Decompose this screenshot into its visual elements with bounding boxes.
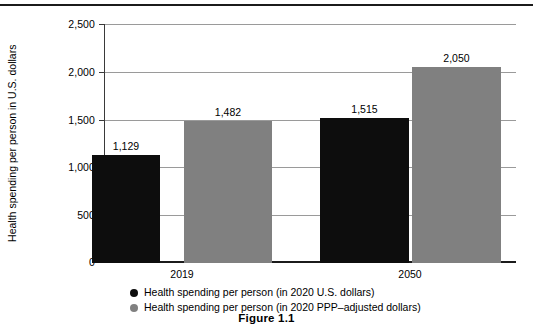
plot-area: 2,500 2,000 1,500 1,000 500 0 1,129 (104, 24, 516, 263)
gridline-2500: 2,500 (104, 24, 516, 25)
bar-2050-ppp-adjusted[interactable]: 2,050 (412, 67, 501, 263)
y-axis-title-text: Health spending per person in U.S. dolla… (8, 45, 19, 242)
bar-value-label: 1,482 (215, 107, 241, 118)
figure-container: Health spending per person in U.S. dolla… (0, 0, 533, 331)
y-axis-title: Health spending per person in U.S. dolla… (6, 24, 20, 263)
legend-swatch-circle-icon (130, 289, 138, 297)
y-tick-label-2500: 2,500 (68, 19, 95, 30)
bar-value-label: 1,515 (351, 104, 377, 115)
y-tick-label-2000: 2,000 (68, 67, 95, 78)
legend-label: Health spending per person (in 2020 U.S.… (144, 287, 375, 298)
top-divider-rule (0, 4, 533, 6)
legend-item-us-dollars[interactable]: Health spending per person (in 2020 U.S.… (130, 286, 421, 299)
bar-2050-us-dollars[interactable]: 1,515 (320, 118, 409, 263)
x-tick-label-2019: 2019 (170, 269, 193, 280)
y-tick-label-1500: 1,500 (68, 114, 95, 125)
bar-value-label: 1,129 (113, 141, 139, 152)
bar-value-label: 2,050 (443, 53, 469, 64)
bar-2019-ppp-adjusted[interactable]: 1,482 (184, 121, 272, 263)
figure-caption: Figure 1.1 (0, 313, 533, 325)
bar-2019-us-dollars[interactable]: 1,129 (92, 155, 160, 263)
legend-swatch-circle-icon (130, 304, 138, 312)
x-tick-label-2050: 2050 (398, 269, 421, 280)
y-tick-label-1000: 1,000 (68, 162, 95, 173)
